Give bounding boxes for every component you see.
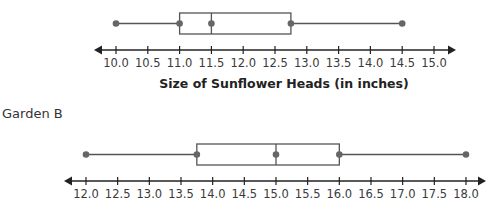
point-q1 (176, 20, 183, 27)
point-median (273, 151, 280, 158)
box-plot-1: 10.010.511.011.512.012.513.013.514.014.5… (94, 13, 456, 91)
point-min (83, 151, 90, 158)
tick-label: 11.5 (199, 56, 225, 70)
iqr-box (197, 144, 339, 165)
tick-label: 13.5 (326, 56, 352, 70)
point-median (208, 20, 215, 27)
tick-label: 10.0 (103, 56, 129, 70)
point-q1 (194, 151, 201, 158)
box-and-whisker (113, 13, 406, 34)
tick-label: 11.0 (167, 56, 193, 70)
box-plot-2: Garden B12.012.513.013.514.014.515.015.5… (2, 106, 486, 201)
tick-label: 15.0 (263, 187, 289, 201)
arrow-right-icon (448, 46, 456, 55)
point-min (113, 20, 120, 27)
point-max (463, 151, 470, 158)
tick-label: 14.5 (232, 187, 258, 201)
arrow-left-icon (94, 46, 102, 55)
arrow-left-icon (64, 177, 72, 186)
garden-label: Garden B (2, 106, 63, 121)
tick-label: 13.0 (294, 56, 320, 70)
box-plot-figure: 10.010.511.011.512.012.513.013.514.014.5… (0, 0, 487, 208)
number-line-axis: 12.012.513.013.514.014.515.015.516.016.5… (64, 177, 486, 202)
box-and-whisker (83, 144, 470, 165)
tick-label: 13.5 (168, 187, 194, 201)
tick-label: 17.0 (390, 187, 416, 201)
point-q3 (288, 20, 295, 27)
tick-label: 14.0 (358, 56, 384, 70)
tick-label: 12.0 (73, 187, 99, 201)
iqr-box (180, 13, 291, 34)
point-max (399, 20, 406, 27)
tick-label: 13.0 (137, 187, 163, 201)
tick-label: 12.5 (262, 56, 288, 70)
tick-label: 10.5 (135, 56, 161, 70)
tick-label: 12.5 (105, 187, 131, 201)
arrow-right-icon (478, 177, 486, 186)
number-line-axis: 10.010.511.011.512.012.513.013.514.014.5… (94, 46, 456, 71)
tick-label: 12.0 (230, 56, 256, 70)
tick-label: 14.0 (200, 187, 226, 201)
point-q3 (336, 151, 343, 158)
tick-label: 15.0 (421, 56, 447, 70)
tick-label: 16.5 (358, 187, 384, 201)
tick-label: 15.5 (295, 187, 321, 201)
axis-title: Size of Sunflower Heads (in inches) (159, 76, 408, 91)
tick-label: 14.5 (389, 56, 415, 70)
tick-label: 16.0 (327, 187, 353, 201)
tick-label: 18.0 (453, 187, 479, 201)
tick-label: 17.5 (422, 187, 448, 201)
